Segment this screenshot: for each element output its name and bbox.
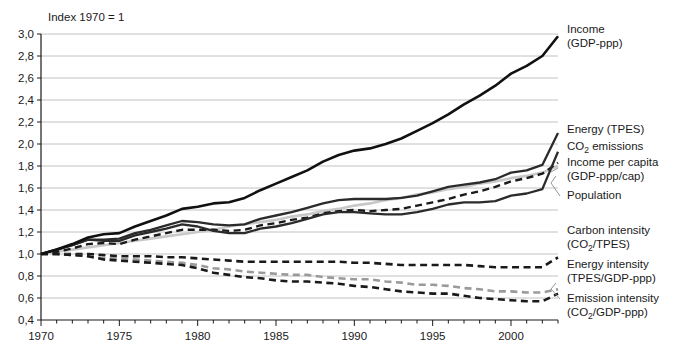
- y-axis: 0,40,60,81,01,21,41,61,82,02,22,42,62,83…: [18, 28, 41, 326]
- y-tick-label: 2,4: [18, 94, 35, 106]
- chart-container: 0,40,60,81,01,21,41,61,82,02,22,42,62,83…: [0, 0, 679, 348]
- y-tick-label: 2,6: [18, 72, 34, 84]
- series-label-text: Population: [567, 189, 621, 201]
- x-tick-label: 1985: [263, 330, 289, 342]
- y-tick-label: 0,6: [18, 292, 34, 304]
- series-labels: Income(GDP-ppp)Energy (TPES)CO2 emission…: [567, 23, 659, 321]
- series-group: [41, 36, 558, 301]
- emission-intensity-leader-line: [551, 283, 560, 299]
- y-tick-label: 1,8: [18, 160, 34, 172]
- x-tick-label: 1975: [107, 330, 133, 342]
- series-label: Energy (TPES): [567, 123, 644, 135]
- series-label-text: Emission intensity: [567, 292, 659, 304]
- series-label: Energy intensity(TPES/GDP-ppp): [567, 258, 656, 284]
- y-tick-label: 1,0: [18, 248, 34, 260]
- y-tick-label: 1,6: [18, 182, 34, 194]
- series-label-text: Energy intensity: [567, 258, 649, 270]
- y-tick-label: 1,2: [18, 226, 34, 238]
- population-leader-line: [551, 176, 560, 196]
- series-label-text: (CO2/TPES): [567, 238, 630, 253]
- y-tick-label: 2,2: [18, 116, 34, 128]
- x-axis: 1970197519801985199019952000: [28, 320, 558, 342]
- x-tick-label: 1990: [342, 330, 368, 342]
- series-label-text: (GDP-ppp): [567, 37, 623, 49]
- line-chart: 0,40,60,81,01,21,41,61,82,02,22,42,62,83…: [0, 0, 679, 348]
- gridlines: [41, 34, 558, 298]
- series-label-text: CO2 emissions: [567, 140, 644, 155]
- series-label: Income per capita(GDP-ppp/cap): [567, 156, 659, 182]
- series-label-text: Carbon intensity: [567, 224, 650, 236]
- series-line: [41, 254, 558, 267]
- series-label-text: Income: [567, 23, 605, 35]
- y-tick-label: 2,0: [18, 138, 34, 150]
- x-tick-label: 1970: [28, 330, 54, 342]
- y-tick-label: 0,4: [18, 314, 35, 326]
- series-label-text: (GDP-ppp/cap): [567, 170, 645, 182]
- chart-title: Index 1970 = 1: [48, 11, 124, 23]
- series-label: Income(GDP-ppp): [567, 23, 623, 49]
- series-label: Emission intensity(CO2/GDP-ppp): [567, 292, 659, 321]
- series-label-text: Income per capita: [567, 156, 659, 168]
- series-label: CO2 emissions: [567, 140, 644, 155]
- series-label-text: (CO2/GDP-ppp): [567, 306, 648, 321]
- x-tick-label: 2000: [498, 330, 524, 342]
- series-label: Population: [567, 189, 621, 201]
- y-tick-label: 2,8: [18, 50, 34, 62]
- y-tick-label: 0,8: [18, 270, 34, 282]
- series-label: Carbon intensity(CO2/TPES): [567, 224, 650, 253]
- series-line: [41, 133, 558, 254]
- series-line: [41, 254, 558, 293]
- series-label-text: Energy (TPES): [567, 123, 644, 135]
- series-label-text: (TPES/GDP-ppp): [567, 272, 656, 284]
- y-tick-label: 1,4: [18, 204, 35, 216]
- x-tick-label: 1995: [420, 330, 446, 342]
- y-tick-label: 3,0: [18, 28, 34, 40]
- x-tick-label: 1980: [185, 330, 211, 342]
